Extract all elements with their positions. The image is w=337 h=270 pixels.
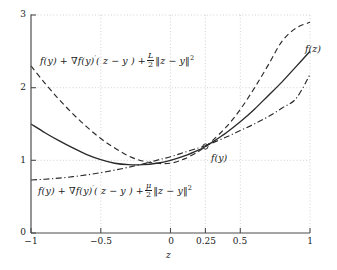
upper-bound-annotation: f(y) + ∇f(y)′( z − y ) +L2‖z − y‖2 xyxy=(40,52,194,69)
y-axis-tick-label-1: 1 xyxy=(12,155,26,165)
lower-bound-fraction-denominator: 2 xyxy=(145,191,152,199)
upper-bound-norm: ‖z − y‖ xyxy=(155,55,190,66)
x-axis-tick-label-minus-0-5: −0.5 xyxy=(83,236,119,246)
curve-label-fy: f(y) xyxy=(211,152,227,163)
curve-label-fz: f(z) xyxy=(305,43,321,54)
lower-bound-fraction: μ2 xyxy=(145,182,152,199)
x-axis-tick-label-0: 0 xyxy=(157,236,185,246)
curve-upper-bound-dashed xyxy=(31,22,310,163)
y-axis-tick-label-2: 2 xyxy=(12,82,26,92)
lower-bound-exponent: 2 xyxy=(188,184,192,192)
upper-bound-fraction-denominator: 2 xyxy=(147,61,154,69)
upper-bound-fraction: L2 xyxy=(147,52,154,69)
upper-bound-arg: ( z − y ) + xyxy=(96,55,146,66)
lower-bound-arg: ( z − y ) + xyxy=(94,185,144,196)
lower-bound-norm: ‖z − y‖ xyxy=(153,185,188,196)
plot-canvas xyxy=(0,0,337,270)
grid-lines xyxy=(31,15,310,233)
x-axis-title: z xyxy=(166,250,171,260)
upper-bound-lead: f(y) + ∇f(y) xyxy=(40,55,94,66)
x-axis-tick-label-minus-1: −1 xyxy=(17,236,45,246)
x-axis-tick-label-0-25: 0.25 xyxy=(188,236,224,246)
x-axis-tick-label-1: 1 xyxy=(296,236,324,246)
y-axis-tick-label-3: 3 xyxy=(12,9,26,19)
x-axis-tick-label-0-5: 0.5 xyxy=(225,236,255,246)
upper-bound-exponent: 2 xyxy=(190,54,194,62)
lower-bound-lead: f(y) + ∇f(y) xyxy=(38,185,92,196)
curves-group xyxy=(31,22,310,180)
chart-figure: 3 2 1 0 −1 −0.5 0 0.25 0.5 1 z f(y) + ∇f… xyxy=(0,0,337,270)
lower-bound-annotation: f(y) + ∇f(y)′( z − y ) +μ2‖z − y‖2 xyxy=(38,182,192,199)
